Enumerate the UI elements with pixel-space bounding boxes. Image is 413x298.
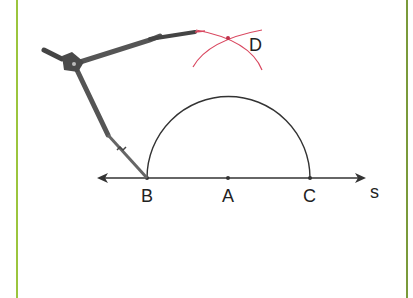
label-s: s: [370, 183, 379, 201]
label-b: B: [141, 187, 153, 205]
label-d: D: [249, 36, 262, 54]
point-c: [308, 176, 312, 180]
semicircle-arc: [147, 97, 310, 178]
label-c: C: [303, 187, 316, 205]
line-s: [97, 173, 366, 183]
point-a: [226, 176, 230, 180]
compass-icon: [44, 31, 205, 178]
label-a: A: [222, 187, 234, 205]
